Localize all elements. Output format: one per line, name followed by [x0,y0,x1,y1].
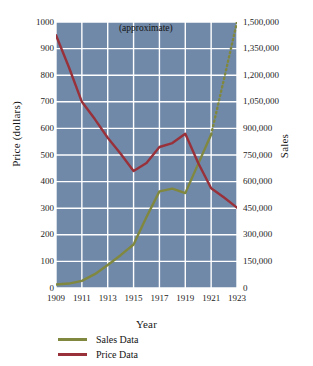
legend-swatch-icon [58,338,87,341]
plot-svg [56,22,237,288]
gridlines [56,22,237,288]
legend-swatch-icon [58,353,87,356]
chart-legend: Sales DataPrice Data [58,332,228,362]
data-series [56,22,237,284]
legend-item: Price Data [58,347,228,362]
chart-figure: Price (dollars) Sales Year 0100200300400… [0,0,313,366]
x-tick-label: 1923 [221,294,253,303]
approximate-annotation: (approximate) [119,23,173,33]
legend-item: Sales Data [58,332,228,347]
legend-item-label: Sales Data [96,334,139,345]
legend-item-label: Price Data [96,349,138,360]
plot-area: (approximate) [56,22,237,288]
series-line-sales-data [211,22,237,135]
